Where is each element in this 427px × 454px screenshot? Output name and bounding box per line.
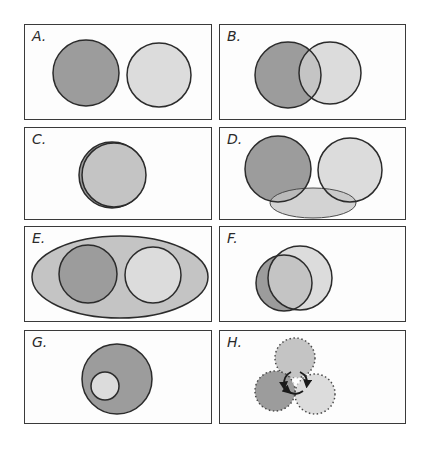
dark-circle [53, 40, 119, 106]
panel-g: G. [24, 330, 212, 424]
medium-ellipse [270, 188, 356, 218]
venn-separate-circles [25, 25, 213, 121]
venn-overlapping-circles [220, 25, 407, 121]
panel-h: H. [219, 330, 406, 424]
venn-contained-circle [25, 331, 213, 425]
panel-b: B. [219, 24, 406, 120]
panel-label: E. [32, 230, 45, 246]
dark-circle [59, 245, 117, 303]
light-circle [127, 43, 191, 107]
panel-f: F. [219, 226, 406, 322]
venn-ellipse-containing-circles [25, 227, 213, 323]
panel-e: E. [24, 226, 212, 322]
right-circle [295, 374, 335, 414]
venn-coincident-circles [25, 128, 213, 221]
venn-three-dotted-circles [220, 331, 407, 425]
light-circle [125, 247, 181, 303]
venn-heavy-overlap [220, 227, 407, 323]
panel-c: C. [24, 127, 212, 220]
light-circle [91, 372, 119, 400]
panel-a: A. [24, 24, 212, 120]
light-circle [82, 143, 146, 207]
venn-two-circles-with-ellipse [220, 128, 407, 221]
panel-d: D. [219, 127, 406, 220]
